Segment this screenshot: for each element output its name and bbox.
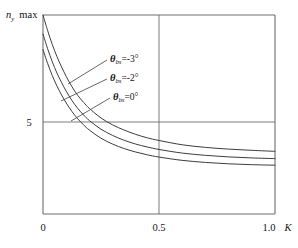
y-axis-title: nymax xyxy=(6,9,38,23)
annotation-theta-bs-minus3: θbs=-3° xyxy=(110,53,139,65)
x-tick-label-0p5: 0.5 xyxy=(152,222,165,233)
annotation-theta-bs-0: θbs=0° xyxy=(113,91,139,103)
annotation-theta-bs-minus2: θbs=-2° xyxy=(110,72,139,84)
y-tick-label-5: 5 xyxy=(26,117,31,128)
x-axis-title: K xyxy=(283,222,292,233)
chart-figure: θbs=-3° θbs=-2° θbs=0° nymax 5 0 0.5 1.0… xyxy=(0,0,298,248)
x-tick-label-0: 0 xyxy=(40,222,45,233)
chart-svg: θbs=-3° θbs=-2° θbs=0° nymax 5 0 0.5 1.0… xyxy=(0,0,298,248)
x-tick-label-1p0: 1.0 xyxy=(262,222,275,233)
